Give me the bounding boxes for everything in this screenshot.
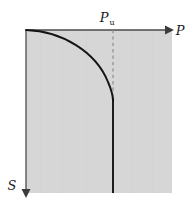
s-axis-label: S	[8, 178, 17, 193]
s-axis-arrowhead	[22, 189, 31, 198]
p-axis-label: P	[175, 23, 185, 38]
phase-diagram-svg: P u P S	[0, 0, 196, 207]
plot-area-background	[26, 30, 172, 193]
threshold-label-main: P	[99, 10, 109, 25]
threshold-label-group: P u	[99, 10, 115, 27]
threshold-label-subscript: u	[109, 18, 114, 27]
figure-container: P u P S	[0, 0, 196, 207]
